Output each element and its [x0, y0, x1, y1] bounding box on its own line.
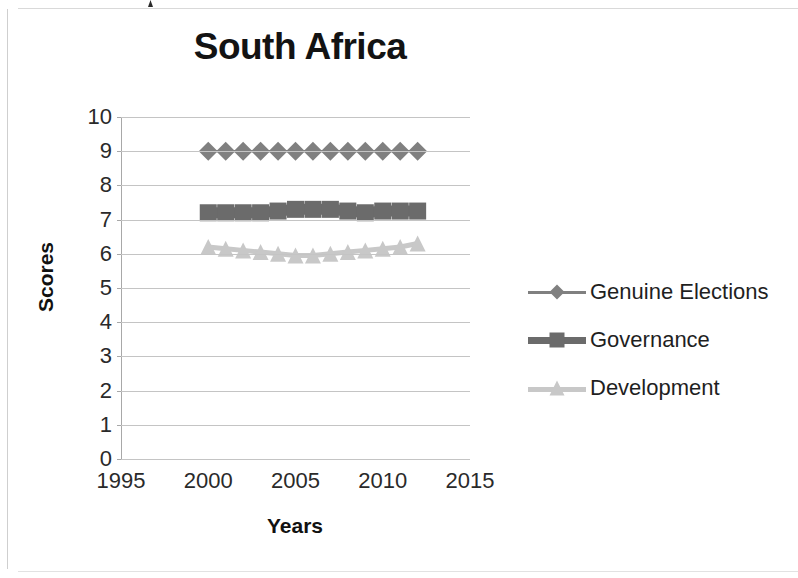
y-axis-tick-label: 10 — [68, 106, 112, 128]
grid-line — [121, 185, 470, 186]
chart-title: South Africa — [120, 26, 480, 68]
data-point-marker — [409, 203, 426, 220]
y-axis-tick — [117, 117, 121, 118]
grid-line — [121, 459, 470, 460]
legend-marker — [549, 332, 565, 348]
y-axis-tick — [117, 391, 121, 392]
y-axis-tick-label: 2 — [68, 380, 112, 402]
data-point-marker — [304, 201, 321, 218]
plot-area — [121, 117, 470, 459]
y-axis-tick-label: 0 — [68, 448, 112, 470]
y-axis-tick-label: 1 — [68, 414, 112, 436]
x-axis-tick-label: 1995 — [81, 470, 161, 492]
legend-item-genuine-elections[interactable]: Genuine Elections — [528, 268, 790, 316]
grid-line — [121, 288, 470, 289]
chart-figure: South Africa Scores Years 109876543210 1… — [0, 0, 798, 578]
data-point-marker — [287, 201, 304, 218]
legend-label: Genuine Elections — [586, 279, 769, 305]
data-point-marker — [270, 203, 287, 220]
grid-line — [121, 151, 470, 152]
chart-legend: Genuine ElectionsGovernanceDevelopment — [528, 268, 790, 412]
x-axis-tick-labels: 19952000200520102015 — [121, 470, 470, 504]
y-axis-tick — [117, 151, 121, 152]
legend-item-governance[interactable]: Governance — [528, 316, 790, 364]
y-axis-tick — [117, 322, 121, 323]
y-axis-tick — [117, 459, 121, 460]
data-point-marker — [339, 203, 356, 220]
y-axis-tick-label: 8 — [68, 174, 112, 196]
y-axis-tick-label: 7 — [68, 209, 112, 231]
y-axis-tick-labels: 109876543210 — [62, 117, 112, 459]
x-axis-tick-label: 2005 — [256, 470, 336, 492]
y-axis-tick — [117, 220, 121, 221]
y-axis-tick — [117, 254, 121, 255]
x-axis-title: Years — [215, 514, 375, 538]
legend-label: Governance — [586, 327, 710, 353]
legend-marker — [549, 380, 565, 396]
y-axis-tick-label: 6 — [68, 243, 112, 265]
grid-line — [121, 322, 470, 323]
y-axis-tick — [117, 425, 121, 426]
data-point-marker — [322, 201, 339, 218]
data-point-marker — [392, 203, 409, 220]
y-axis-tick-label: 4 — [68, 311, 112, 333]
data-point-marker — [374, 203, 391, 220]
y-axis-tick-label: 9 — [68, 140, 112, 162]
grid-line — [121, 391, 470, 392]
grid-line — [121, 425, 470, 426]
grid-line — [121, 117, 470, 118]
x-axis-tick-label: 2010 — [343, 470, 423, 492]
series-development — [200, 236, 425, 264]
x-axis-tick-label: 2015 — [430, 470, 510, 492]
triangle-marker-icon — [528, 377, 586, 399]
y-axis-tick — [117, 185, 121, 186]
legend-marker — [549, 284, 565, 300]
legend-label: Development — [586, 375, 720, 401]
diamond-marker-icon — [528, 281, 586, 303]
x-axis-tick-label: 2000 — [168, 470, 248, 492]
grid-line — [121, 356, 470, 357]
grid-line — [121, 254, 470, 255]
y-axis-title: Scores — [34, 217, 58, 337]
y-axis-tick — [117, 288, 121, 289]
series-governance — [200, 201, 426, 221]
square-marker-icon — [528, 329, 586, 351]
legend-item-development[interactable]: Development — [528, 364, 790, 412]
y-axis-tick-label: 3 — [68, 345, 112, 367]
grid-line — [121, 220, 470, 221]
y-axis-tick-label: 5 — [68, 277, 112, 299]
y-axis-tick — [117, 356, 121, 357]
